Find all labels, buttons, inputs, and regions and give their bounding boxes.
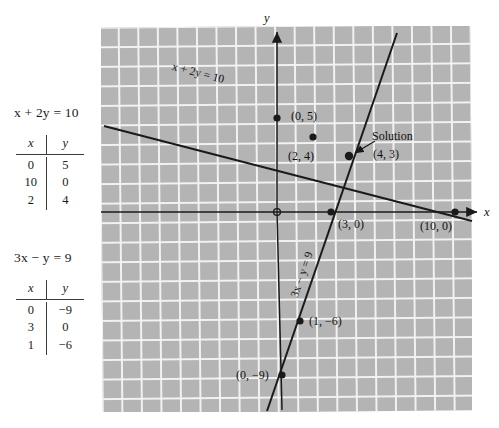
x-axis-label: x	[484, 206, 490, 219]
point-0-5	[273, 114, 280, 121]
line-x-plus-2y-equals-10	[104, 126, 472, 221]
point-label-3-0: (3, 0)	[338, 218, 364, 230]
line-3x-minus-y-equals-9	[267, 33, 397, 411]
point-label-2-4: (2, 4)	[288, 150, 314, 162]
point-2-4	[309, 133, 316, 140]
point-intersection-4-3	[345, 152, 353, 160]
point-1-minus6	[296, 317, 303, 324]
solution-coords-label: (4, 3)	[373, 148, 399, 160]
y-axis-label: y	[264, 12, 270, 25]
solution-word-label: Solution	[372, 130, 413, 142]
point-3-0	[327, 208, 334, 215]
point-label-0-minus9: (0, −9)	[236, 369, 269, 381]
point-label-10-0: (10, 0)	[420, 220, 452, 232]
point-label-0-5: (0, 5)	[291, 110, 317, 122]
point-label-1-minus6: (1, −6)	[309, 315, 342, 327]
point-0-minus9	[278, 371, 285, 378]
figure-root: x + 2y = 10 x y 0 5 10 0	[0, 0, 499, 428]
point-10-0	[451, 208, 458, 215]
graph-overlay	[0, 0, 499, 428]
